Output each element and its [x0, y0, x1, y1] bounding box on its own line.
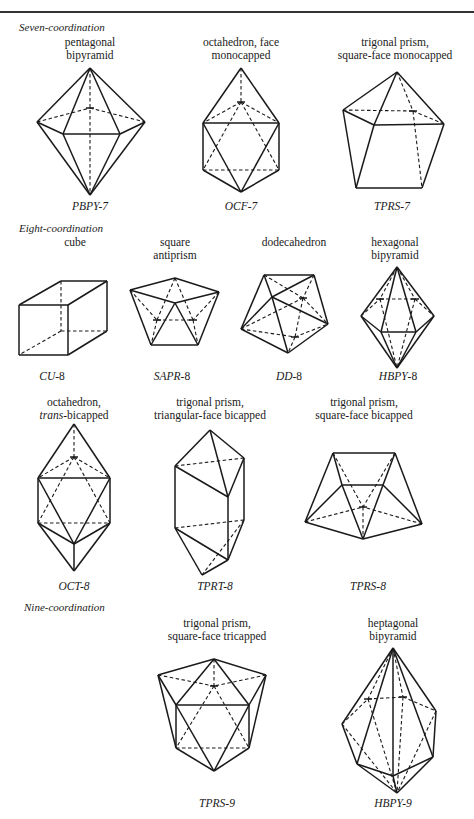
polyhedron-tprs-7 — [343, 72, 444, 188]
polyhedron-pbpy-7 — [37, 68, 145, 195]
polyhedron-tprs-8 — [305, 453, 422, 539]
polyhedra-drawings — [0, 0, 474, 819]
polyhedron-hbpy-9 — [342, 648, 436, 793]
polyhedron-hbpy-8 — [361, 267, 434, 368]
polyhedron-ocf-7 — [203, 68, 279, 192]
polyhedron-dd-8 — [241, 275, 328, 353]
polyhedron-sapr-8 — [130, 278, 219, 345]
polyhedron-cu-8 — [19, 281, 107, 355]
polyhedron-tprt-8 — [175, 430, 244, 575]
polyhedron-oct-8 — [38, 424, 110, 571]
polyhedron-tprs-9 — [158, 659, 266, 771]
